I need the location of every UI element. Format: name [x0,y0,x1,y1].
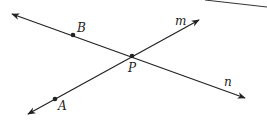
page-edge-line [205,0,267,7]
point-a [53,97,58,102]
label-a: A [57,99,67,113]
label-m: m [175,14,186,28]
label-n: n [224,75,232,89]
geometry-diagram: B P A m n [0,0,267,120]
label-b: B [76,21,86,35]
point-p [130,54,135,59]
point-b [71,33,76,38]
line-n [12,14,245,98]
label-p: P [127,61,137,75]
